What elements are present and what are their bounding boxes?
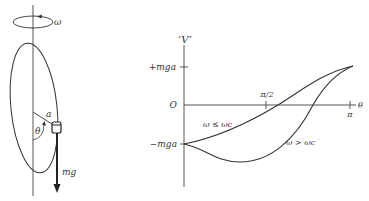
hoop-diagram: ω a θ mg	[4, 5, 76, 196]
curve-low-omega-label: ω ≤ ωc	[203, 120, 233, 129]
potential-graph: ‘V’ θ +mga O −mga π/2 π ω ≤ ωc ω > ωc	[149, 34, 363, 187]
curve-high-omega-label: ω > ωc	[286, 138, 316, 147]
y-axis-label: ‘V’	[178, 34, 192, 45]
curve-high-omega	[184, 66, 353, 162]
x-tick-mid-label: π/2	[259, 90, 273, 99]
bead	[52, 122, 61, 133]
omega-label: ω	[54, 17, 62, 27]
weight-label: mg	[62, 167, 77, 177]
y-tick-top-label: +mga	[149, 62, 176, 72]
hoop	[4, 41, 63, 175]
y-tick-bottom-label: −mga	[150, 139, 177, 149]
rotation-arrowhead-icon	[37, 15, 42, 19]
y-tick-zero-label: O	[170, 100, 178, 110]
x-tick-end-label: π	[346, 110, 353, 119]
radius-label: a	[46, 109, 51, 119]
figure: ω a θ mg ‘V’ θ +mga O −mga π/2	[0, 0, 369, 201]
weight-arrowhead-icon	[54, 184, 61, 193]
angle-arrowhead-icon	[42, 121, 46, 126]
angle-label: θ	[35, 126, 41, 136]
x-axis-label: θ	[358, 101, 363, 110]
